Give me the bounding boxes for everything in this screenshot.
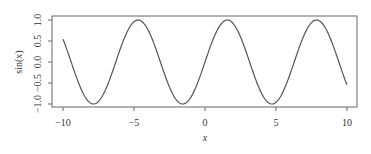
y-axis-label: sin(x): [13, 50, 25, 73]
x-tick-label: 0: [203, 117, 208, 128]
y-tick-label: 1.0: [32, 14, 43, 27]
x-tick-label: −10: [55, 117, 71, 128]
y-tick-label: 0.5: [32, 35, 43, 48]
x-tick-label: 10: [342, 117, 352, 128]
y-tick-label: −1.0: [32, 95, 43, 113]
y-tick-label: 0.0: [32, 56, 43, 69]
sine-curve: [63, 20, 347, 104]
x-tick-label: 5: [274, 117, 279, 128]
plot-frame: [52, 16, 357, 107]
x-axis-label: x: [202, 132, 208, 143]
x-tick-label: −5: [129, 117, 140, 128]
y-axis: −1.0−0.50.00.51.0: [32, 14, 52, 113]
x-axis: −10−50510: [55, 107, 352, 128]
sine-chart: −10−50510 −1.0−0.50.00.51.0 x sin(x): [0, 0, 371, 154]
y-tick-label: −0.5: [32, 74, 43, 92]
